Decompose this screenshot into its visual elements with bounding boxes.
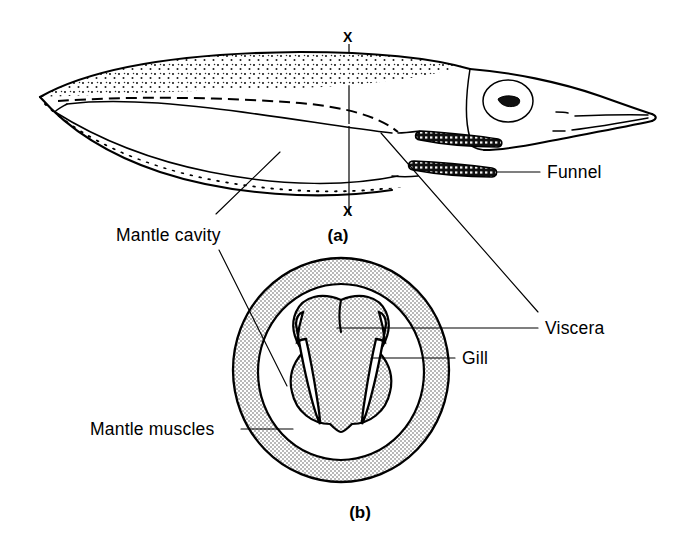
label-funnel: Funnel — [547, 162, 602, 182]
head-dorsal-outline — [470, 69, 652, 114]
tentacle-line-upper — [575, 115, 648, 116]
label-gill: Gill — [462, 348, 488, 368]
label-mantle-cavity: Mantle cavity — [116, 225, 221, 245]
eye-icon — [483, 80, 533, 122]
panel-b-transverse-section: (b) — [233, 258, 449, 522]
label-viscera: Viscera — [545, 318, 605, 338]
squid-anatomy-figure: X X (a) (b) — [0, 0, 683, 545]
panel-b-caption: (b) — [349, 503, 371, 522]
mantle-cavity-upper-wall — [67, 102, 392, 133]
funnel-icon — [409, 161, 497, 177]
panel-a-caption: (a) — [328, 226, 349, 245]
ventral-dot-row — [45, 104, 405, 191]
label-mantle-muscles: Mantle muscles — [90, 419, 214, 439]
funnel-attachment — [392, 176, 418, 177]
ventral-dot-row-clip — [45, 104, 405, 191]
tentacle-stub-upper — [556, 112, 568, 113]
collar-bar — [416, 131, 502, 147]
head-ventral-outline — [484, 121, 652, 150]
mantle-cavity-lower-wall — [55, 112, 398, 183]
panel-a-lateral-view: X X (a) — [30, 29, 656, 245]
head-collar-seam — [466, 69, 470, 138]
mantle-ventral-outline — [40, 97, 392, 195]
eye-pupil — [498, 96, 520, 107]
section-mark-top: X — [343, 29, 353, 45]
figure-canvas: X X (a) (b) — [0, 0, 683, 545]
tentacle-tip — [652, 114, 656, 121]
mantle-tip-fold — [55, 104, 67, 112]
section-mark-bottom: X — [343, 203, 353, 219]
